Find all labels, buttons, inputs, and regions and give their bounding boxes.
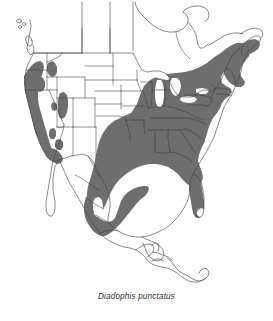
lake-michigan (155, 80, 164, 107)
range-map-figure: Diadophis punctatus (0, 0, 273, 321)
figure-caption: Diadophis punctatus (0, 292, 273, 301)
range-patch-arizona (49, 128, 56, 139)
north-america-range-map (0, 0, 273, 321)
